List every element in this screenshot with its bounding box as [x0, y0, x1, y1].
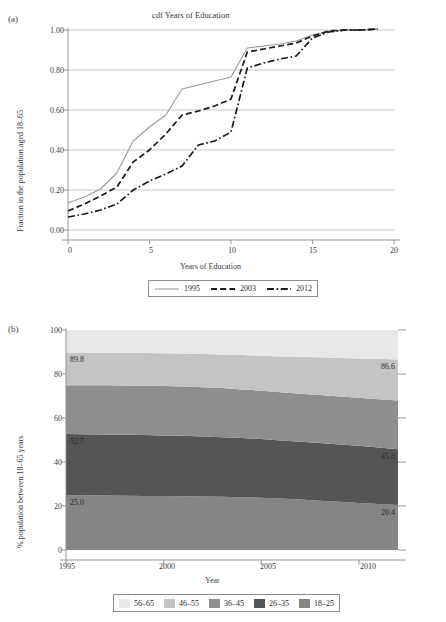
- annotation-45.8: 45.8: [381, 452, 395, 461]
- legend-swatch-46–55: [164, 599, 175, 608]
- annotation-86.6: 86.6: [381, 362, 395, 371]
- legend-item-56–65: 56–65: [114, 599, 159, 608]
- annotation-52.7: 52.7: [70, 437, 84, 446]
- legend-label-56–65: 56–65: [134, 599, 154, 608]
- legend-label-1995: 1995: [184, 284, 200, 293]
- legend-item-36–45: 36–45: [204, 599, 249, 608]
- panel-a-plot: [0, 0, 446, 310]
- annotation-25.0: 25.0: [70, 498, 84, 507]
- figure-container: (a) cdf Years of Education Fraction in t…: [0, 0, 446, 622]
- legend-line-2003: [210, 285, 236, 293]
- legend-item-1995: 1995: [149, 284, 205, 293]
- annotation-20.4: 20.4: [381, 508, 395, 517]
- panel-a-legend: 199520032012: [148, 280, 318, 297]
- legend-item-46–55: 46–55: [159, 599, 204, 608]
- legend-label-26–35: 26–35: [269, 599, 289, 608]
- legend-line-2012: [266, 285, 292, 293]
- legend-label-18–25: 18–25: [314, 599, 334, 608]
- annotation-89.8: 89.8: [70, 355, 84, 364]
- panel-b-plot: 89.852.725.086.645.820.4: [0, 310, 446, 622]
- legend-label-36–45: 36–45: [224, 599, 244, 608]
- legend-item-2003: 2003: [205, 284, 261, 293]
- legend-item-26–35: 26–35: [249, 599, 294, 608]
- panel-b: (b) % population between 18–65 years Yea…: [0, 310, 446, 622]
- legend-swatch-26–35: [254, 599, 265, 608]
- panel-b-legend: 56–6546–5536–4526–3518–25: [113, 594, 340, 612]
- legend-label-46–55: 46–55: [179, 599, 199, 608]
- legend-label-2003: 2003: [240, 284, 256, 293]
- legend-label-2012: 2012: [296, 284, 312, 293]
- legend-item-18–25: 18–25: [294, 599, 339, 608]
- legend-swatch-56–65: [119, 599, 130, 608]
- legend-line-1995: [154, 285, 180, 293]
- legend-swatch-36–45: [209, 599, 220, 608]
- legend-item-2012: 2012: [261, 284, 317, 293]
- panel-a: (a) cdf Years of Education Fraction in t…: [0, 0, 446, 310]
- legend-swatch-18–25: [299, 599, 310, 608]
